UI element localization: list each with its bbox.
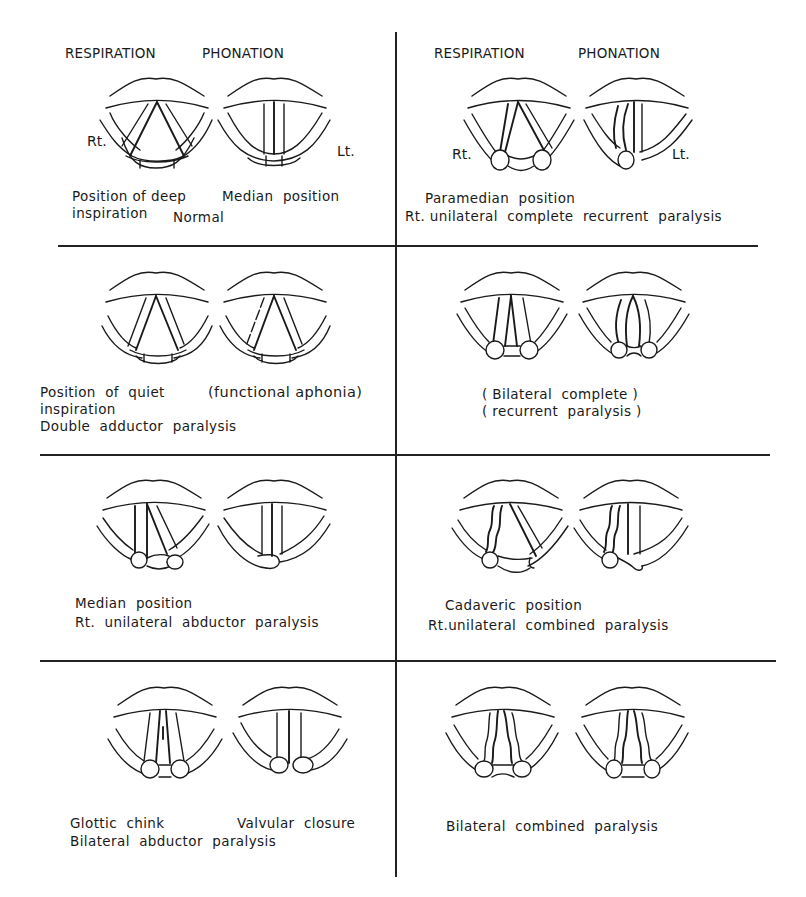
caption-unilateral-abductor-condition: Rt. unilateral abductor paralysis bbox=[75, 614, 319, 631]
header-right-respiration: RESPIRATION bbox=[434, 45, 525, 61]
caption-bilateral-abductor-respiration: Glottic chink bbox=[70, 815, 165, 832]
larynx-unilateral-combined-respiration-icon bbox=[450, 470, 570, 574]
larynx-bilateral-recurrent-phonation-icon bbox=[577, 262, 692, 366]
larynx-recurrent-phonation-icon bbox=[582, 68, 694, 180]
larynx-unilateral-abductor-phonation-icon bbox=[218, 470, 333, 574]
larynx-bilateral-combined-respiration-icon bbox=[446, 677, 561, 787]
larynx-bilateral-combined-phonation-icon bbox=[576, 677, 691, 787]
larynx-bilateral-abductor-phonation-icon bbox=[233, 677, 348, 787]
header-left-phonation: PHONATION bbox=[202, 45, 284, 61]
row-divider-1 bbox=[58, 245, 758, 247]
caption-normal-condition: Normal bbox=[173, 209, 224, 226]
larynx-normal-respiration-icon bbox=[100, 68, 215, 178]
row-divider-3 bbox=[40, 660, 776, 662]
caption-unilateral-combined-position: Cadaveric position bbox=[445, 597, 582, 614]
caption-unilateral-abductor-position: Median position bbox=[75, 595, 193, 612]
larynx-unilateral-abductor-respiration-icon bbox=[97, 470, 212, 574]
larynx-normal-phonation-icon bbox=[218, 68, 333, 178]
label-left-side-left-panel: Lt. bbox=[337, 143, 355, 159]
caption-adductor-phonation: (functional aphonia) bbox=[208, 384, 362, 401]
larynx-unilateral-combined-phonation-icon bbox=[572, 470, 690, 574]
larynx-recurrent-respiration-icon bbox=[460, 68, 578, 180]
caption-bilateral-combined-condition: Bilateral combined paralysis bbox=[446, 818, 658, 835]
row-divider-2 bbox=[40, 454, 770, 456]
caption-normal-phonation: Median position bbox=[222, 188, 340, 205]
caption-adductor-respiration: Position of quiet inspiration bbox=[40, 384, 165, 418]
caption-normal-respiration: Position of deep inspiration bbox=[72, 188, 186, 222]
caption-bilateral-recurrent-condition: ( Bilateral complete ) ( recurrent paral… bbox=[482, 386, 642, 420]
larynx-bilateral-abductor-respiration-icon bbox=[108, 677, 223, 787]
caption-adductor-condition: Double adductor paralysis bbox=[40, 418, 237, 435]
header-left-respiration: RESPIRATION bbox=[65, 45, 156, 61]
caption-recurrent-condition: Rt. unilateral complete recurrent paraly… bbox=[405, 208, 722, 225]
caption-bilateral-abductor-condition: Bilateral abductor paralysis bbox=[70, 833, 276, 850]
larynx-adductor-respiration-icon bbox=[100, 262, 215, 366]
caption-unilateral-combined-condition: Rt.unilateral combined paralysis bbox=[428, 617, 669, 634]
header-right-phonation: PHONATION bbox=[578, 45, 660, 61]
caption-recurrent-position: Paramedian position bbox=[425, 190, 575, 207]
larynx-bilateral-recurrent-respiration-icon bbox=[455, 262, 570, 366]
caption-bilateral-abductor-phonation: Valvular closure bbox=[237, 815, 355, 832]
larynx-adductor-phonation-icon bbox=[218, 262, 333, 366]
